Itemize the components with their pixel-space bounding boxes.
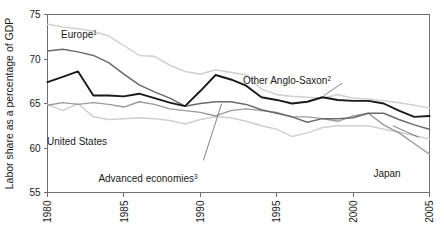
x-axis-ticks: 198019851990199520002005 xyxy=(42,193,435,223)
line-chart: 5560657075 198019851990199520002005 Euro… xyxy=(0,0,444,248)
annotation-united-states: United States xyxy=(47,136,107,147)
y-axis-title: Labor share as a percentage of GDP xyxy=(3,18,15,190)
x-tick-label: 2000 xyxy=(348,200,359,223)
y-tick-label: 75 xyxy=(29,9,41,20)
annotation-other-anglo-saxon: Other Anglo-Saxon2 xyxy=(243,75,332,87)
x-tick-label: 2005 xyxy=(424,200,435,223)
series-line-united-states xyxy=(48,104,430,140)
series-layer xyxy=(48,24,430,154)
chart-figure: 5560657075 198019851990199520002005 Euro… xyxy=(0,0,444,248)
leader-advanced-economies xyxy=(203,104,221,161)
y-axis-title-text: Labor share as a percentage of GDP xyxy=(3,18,15,190)
y-tick-label: 60 xyxy=(29,143,41,154)
y-tick-label: 70 xyxy=(29,54,41,65)
x-tick-label: 1990 xyxy=(195,200,206,223)
x-tick-label: 1985 xyxy=(119,200,130,223)
y-axis-ticks: 5560657075 xyxy=(29,9,47,198)
annotation-japan: Japan xyxy=(373,168,400,179)
y-tick-label: 65 xyxy=(29,98,41,109)
x-tick-label: 1995 xyxy=(271,200,282,223)
series-annotations: Europe1Other Anglo-Saxon2United StatesAd… xyxy=(47,29,401,185)
annotation-europe: Europe1 xyxy=(61,29,97,41)
series-line-advanced-economies xyxy=(48,49,430,129)
y-tick-label: 55 xyxy=(29,187,41,198)
annotation-advanced-economies: Advanced economies3 xyxy=(98,173,198,185)
x-tick-label: 1980 xyxy=(42,200,53,223)
